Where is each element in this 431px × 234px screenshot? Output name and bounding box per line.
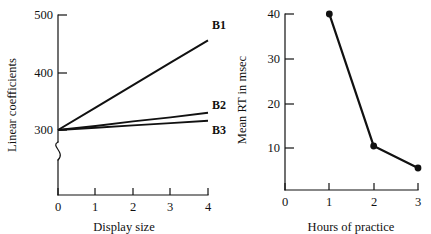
left-x-axis-title: Display size <box>93 220 155 234</box>
right-x-ticklabel-3: 3 <box>415 195 421 209</box>
right-y-ticklabel-30: 30 <box>268 52 281 66</box>
right-y-ticklabel-40: 40 <box>268 7 281 21</box>
right-y-ticklabel-10: 10 <box>268 141 281 155</box>
left-y-ticklabel-500: 500 <box>34 8 53 22</box>
left-x-ticklabel-1: 1 <box>92 200 98 214</box>
left-x-ticklabel-2: 2 <box>130 200 136 214</box>
left-chart-svg: 500 400 300 0 1 2 3 4 B1 B2 B3 Linear <box>0 0 232 234</box>
left-axis-break-icon <box>56 142 61 160</box>
series-label-b2: B2 <box>212 98 226 112</box>
right-x-ticklabel-0: 0 <box>282 195 288 209</box>
right-x-ticklabel-1: 1 <box>326 195 332 209</box>
left-x-ticklabel-3: 3 <box>167 200 173 214</box>
series-label-b3: B3 <box>212 123 226 137</box>
left-y-axis-title: Linear coefficients <box>5 58 19 152</box>
right-y-axis-title: Mean RT in msec <box>235 55 249 144</box>
data-point-marker <box>326 11 333 18</box>
left-y-ticklabel-400: 400 <box>34 66 53 80</box>
figure-container: 500 400 300 0 1 2 3 4 B1 B2 B3 Linear <box>0 0 431 234</box>
right-x-ticklabel-2: 2 <box>371 195 377 209</box>
left-x-ticklabel-4: 4 <box>205 200 212 214</box>
series-label-b1: B1 <box>212 18 226 32</box>
right-y-ticklabel-20: 20 <box>268 97 281 111</box>
left-chart-panel: 500 400 300 0 1 2 3 4 B1 B2 B3 Linear <box>0 0 232 234</box>
right-chart-svg: 40 30 20 10 0 1 2 3 Mean RT in msec Hour… <box>232 0 431 234</box>
data-point-markers <box>326 11 421 172</box>
data-point-marker <box>415 165 422 172</box>
right-chart-panel: 40 30 20 10 0 1 2 3 Mean RT in msec Hour… <box>232 0 431 234</box>
left-x-ticklabel-0: 0 <box>55 200 61 214</box>
left-y-ticklabel-300: 300 <box>34 123 53 137</box>
series-line-b1 <box>58 40 208 130</box>
data-point-marker <box>370 143 377 150</box>
right-x-axis-title: Hours of practice <box>308 220 395 234</box>
